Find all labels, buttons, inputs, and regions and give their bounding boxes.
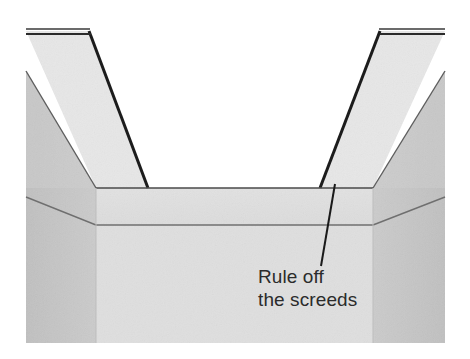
annotation-line-2: the screeds	[258, 289, 357, 310]
figure-root: Rule off the screeds	[0, 0, 470, 359]
annotation-line-1: Rule off	[258, 266, 325, 287]
screed-trench-diagram: Rule off the screeds	[0, 0, 470, 359]
